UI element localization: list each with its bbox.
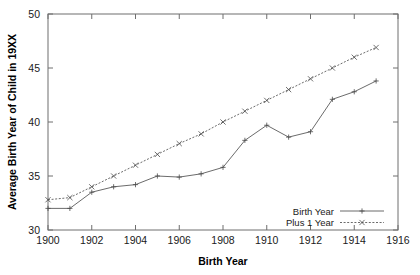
series-plus-1-year — [45, 45, 378, 202]
y-tick-label: 45 — [28, 62, 40, 74]
series-birth-year — [45, 78, 378, 211]
y-tick-label: 40 — [28, 116, 40, 128]
line-chart: 190019021904190619081910191219141916 303… — [0, 0, 420, 275]
x-axis-tick-labels: 190019021904190619081910191219141916 — [36, 234, 410, 246]
y-axis-title: Average Birth Year of Child in 19XX — [6, 34, 18, 210]
chart-legend: Birth YearPlus 1 Year — [286, 206, 384, 229]
x-tick-label: 1904 — [124, 234, 148, 246]
x-tick-label: 1916 — [386, 234, 410, 246]
chart-container: 190019021904190619081910191219141916 303… — [0, 0, 420, 275]
series-line — [48, 81, 376, 208]
x-tick-label: 1906 — [168, 234, 192, 246]
x-tick-label: 1910 — [255, 234, 279, 246]
x-axis-title: Birth Year — [198, 255, 247, 267]
data-series-group — [45, 45, 378, 211]
y-axis-tick-labels: 3035404550 — [28, 8, 40, 236]
x-tick-label: 1908 — [211, 234, 235, 246]
y-tick-label: 30 — [28, 224, 40, 236]
y-tick-label: 35 — [28, 170, 40, 182]
legend-label: Birth Year — [293, 206, 334, 217]
x-tick-label: 1902 — [80, 234, 104, 246]
x-tick-label: 1914 — [343, 234, 367, 246]
y-tick-label: 50 — [28, 8, 40, 20]
legend-label: Plus 1 Year — [286, 217, 334, 228]
series-line — [48, 47, 376, 199]
x-tick-label: 1912 — [299, 234, 323, 246]
